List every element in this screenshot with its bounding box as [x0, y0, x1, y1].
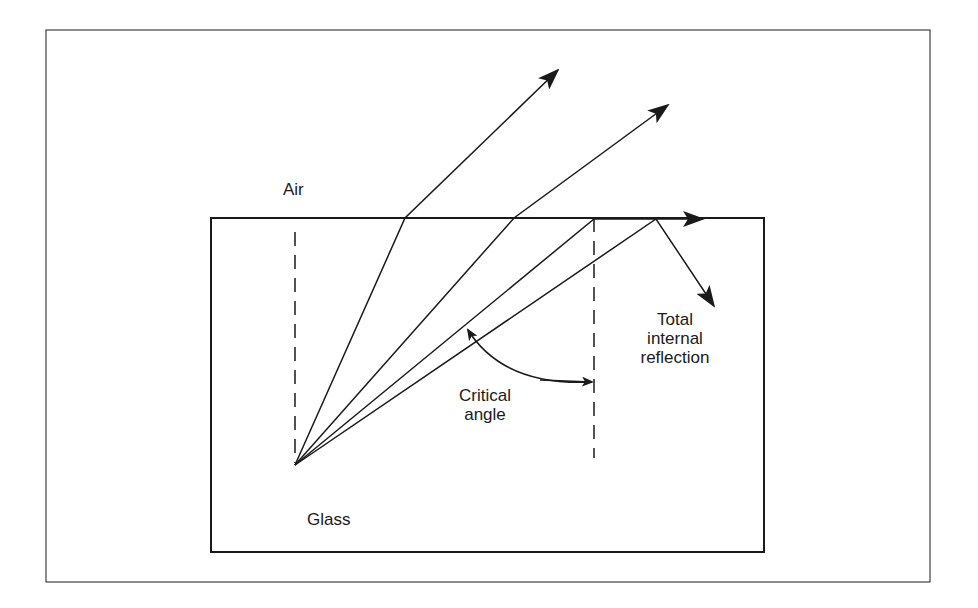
tir-label-line1: Total — [630, 310, 720, 329]
glass-label: Glass — [307, 510, 350, 529]
diagram-canvas — [0, 0, 978, 608]
critical-angle-arc-right — [540, 380, 592, 382]
critical-angle-label: Critical angle — [445, 386, 525, 424]
critical-angle-label-line1: Critical — [445, 386, 525, 405]
glass-block — [211, 218, 764, 552]
tir-label-line2: internal — [630, 329, 720, 348]
air-label: Air — [283, 180, 304, 199]
critical-angle-arc — [468, 330, 592, 382]
critical-angle-label-line2: angle — [445, 405, 525, 424]
tir-label-line3: reflection — [630, 348, 720, 367]
tir-label: Total internal reflection — [630, 310, 720, 367]
